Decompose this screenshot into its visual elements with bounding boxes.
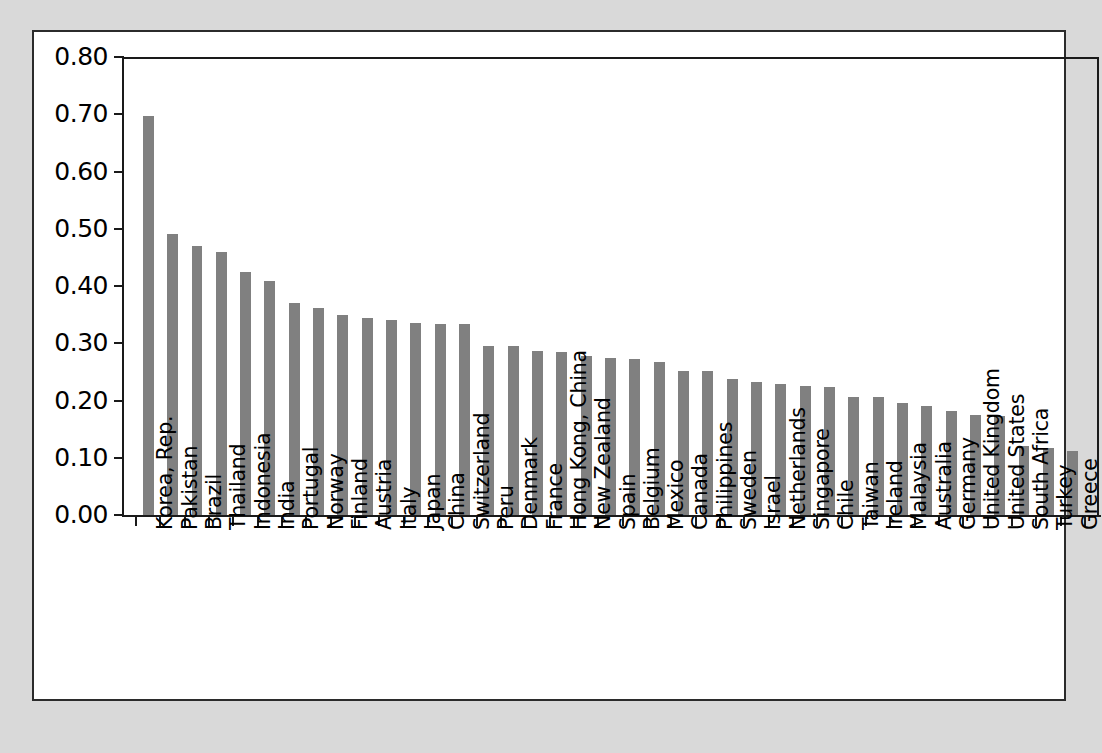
x-axis-tick-label: Ireland xyxy=(885,461,906,531)
y-axis-tick-label: 0.40 xyxy=(34,273,108,298)
x-axis-tick-label: United States xyxy=(1007,394,1028,530)
y-axis-tick xyxy=(114,400,124,402)
y-axis-tick-label: 0.60 xyxy=(34,159,108,184)
y-axis-tick-label: 0.80 xyxy=(34,44,108,69)
x-axis-tick-label: Portugal xyxy=(301,447,322,530)
x-axis-tick-label: Turkey xyxy=(1055,464,1076,530)
y-axis-tick-label: 0.00 xyxy=(34,502,108,527)
x-axis-tick-label: Hong Kong, China xyxy=(569,350,590,530)
x-axis-tick-label: Sweden xyxy=(739,450,760,530)
x-axis-tick-label: Australia xyxy=(934,441,955,530)
x-axis-tick-label: Israel xyxy=(763,475,784,530)
y-axis-tick-label: 0.10 xyxy=(34,445,108,470)
y-axis-tick xyxy=(114,171,124,173)
x-axis-tick-label: Norway xyxy=(326,453,347,530)
x-axis-tick-label: Thailand xyxy=(228,444,249,530)
y-axis-tick xyxy=(114,514,124,516)
x-axis-tick-label: New Zealand xyxy=(593,397,614,530)
x-axis-tick-label: Taiwan xyxy=(861,461,882,530)
x-axis-tick-label: Pakistan xyxy=(180,446,201,530)
x-axis-tick-label: Brazil xyxy=(204,474,225,530)
x-axis-labels: Korea, Rep.PakistanBrazilThailandIndones… xyxy=(124,530,1097,710)
x-axis-tick-label: South Africa xyxy=(1031,408,1052,530)
chart-panel: Korea, Rep.PakistanBrazilThailandIndones… xyxy=(32,30,1066,701)
y-axis-tick xyxy=(114,342,124,344)
x-axis-tick-label: Netherlands xyxy=(788,407,809,530)
x-axis-tick-label: Japan xyxy=(423,474,444,530)
x-axis-tick-label: Peru xyxy=(496,485,517,530)
y-axis-tick-label: 0.70 xyxy=(34,101,108,126)
y-axis-tick xyxy=(114,113,124,115)
x-axis-tick-label: Spain xyxy=(618,474,639,530)
x-axis-tick-label: Germany xyxy=(958,437,979,530)
x-axis-tick-label: Switzerland xyxy=(472,413,493,530)
x-axis-tick-label: Austria xyxy=(374,459,395,530)
plot-right-spine xyxy=(1097,57,1099,517)
x-axis-tick-label: United Kingdom xyxy=(982,368,1003,530)
x-axis-tick-label: Italy xyxy=(399,487,420,530)
x-axis-tick xyxy=(135,517,137,526)
y-axis-tick xyxy=(114,285,124,287)
x-axis-tick-label: Mexico xyxy=(666,460,687,530)
y-axis-tick-label: 0.50 xyxy=(34,216,108,241)
x-axis-tick-label: Belgium xyxy=(642,447,663,530)
x-axis-tick-label: Malaysia xyxy=(909,442,930,530)
y-axis-tick xyxy=(114,56,124,58)
x-axis-tick-label: Philippines xyxy=(715,422,736,530)
y-axis-tick xyxy=(114,228,124,230)
y-axis-tick-label: 0.20 xyxy=(34,388,108,413)
x-axis-tick-label: India xyxy=(277,481,298,530)
x-axis-tick-label: Denmark xyxy=(520,437,541,530)
x-axis-tick-label: France xyxy=(545,463,566,530)
x-axis-tick-label: China xyxy=(447,472,468,530)
x-axis-tick-label: Canada xyxy=(690,453,711,530)
x-axis-tick-label: Korea, Rep. xyxy=(155,416,176,530)
y-axis-tick-label: 0.30 xyxy=(34,330,108,355)
y-axis-tick xyxy=(114,457,124,459)
x-axis-tick-label: Indonesia xyxy=(253,433,274,530)
x-axis-tick-label: Finland xyxy=(350,458,371,530)
x-axis-tick-label: Singapore xyxy=(812,428,833,530)
x-axis-tick-label: Greece xyxy=(1080,458,1101,530)
x-axis-tick-label: Chile xyxy=(836,480,857,530)
